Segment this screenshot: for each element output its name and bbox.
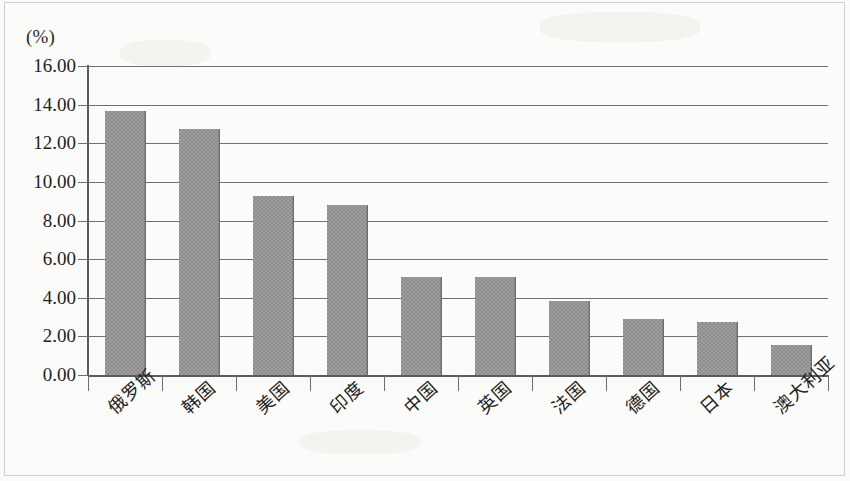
y-axis-tick-label: 6.00 — [4, 248, 76, 270]
y-axis-tick-label: 10.00 — [4, 171, 76, 193]
y-axis-tick-mark — [78, 336, 88, 337]
x-axis-category-label: 美国 — [249, 374, 294, 418]
x-axis-category-label: 日本 — [693, 374, 738, 418]
y-axis-tick-mark — [78, 105, 88, 106]
y-axis-tick-mark — [78, 221, 88, 222]
x-axis-category-label: 法国 — [545, 374, 590, 418]
bar — [623, 319, 664, 375]
x-axis-tick-mark — [236, 375, 237, 391]
y-axis-tick-label: 4.00 — [4, 287, 76, 309]
y-axis-tick-label: 8.00 — [4, 210, 76, 232]
bar — [253, 196, 294, 375]
x-axis-tick-mark — [384, 375, 385, 391]
bar-series — [88, 66, 828, 375]
x-axis-tick-mark — [458, 375, 459, 391]
x-axis-tick-mark — [532, 375, 533, 391]
y-axis-tick-label: 0.00 — [4, 364, 76, 386]
x-axis-category-label: 中国 — [397, 374, 442, 418]
bar — [327, 205, 368, 375]
paper-blotch — [300, 430, 420, 454]
paper-blotch — [540, 12, 700, 42]
bar — [401, 277, 442, 375]
bar — [179, 129, 220, 375]
y-axis-tick-mark — [78, 143, 88, 144]
y-axis-tick-mark — [78, 298, 88, 299]
x-axis-category-label: 英国 — [471, 374, 516, 418]
y-axis-tick-label: 14.00 — [4, 94, 76, 116]
x-axis-category-label: 德国 — [619, 374, 664, 418]
x-axis-tick-mark — [162, 375, 163, 391]
x-axis-tick-mark — [310, 375, 311, 391]
x-axis-tick-mark — [680, 375, 681, 391]
bar — [475, 277, 516, 375]
y-axis-tick-mark — [78, 182, 88, 183]
x-axis-category-label: 韩国 — [175, 374, 220, 418]
y-axis-tick-label: 16.00 — [4, 55, 76, 77]
y-axis-tick-mark — [78, 66, 88, 67]
x-axis-tick-mark — [606, 375, 607, 391]
y-axis-tick-mark — [78, 259, 88, 260]
x-axis-tick-mark — [754, 375, 755, 391]
y-axis-unit-label: (%) — [26, 26, 55, 48]
bar — [549, 301, 590, 375]
paper-blotch — [120, 40, 210, 66]
x-axis-category-label: 印度 — [323, 374, 368, 418]
chart-page: (%) 16.0014.0012.0010.008.006.004.002.00… — [0, 0, 850, 481]
bar — [105, 111, 146, 375]
y-axis-tick-label: 2.00 — [4, 325, 76, 347]
y-axis-tick-mark — [78, 375, 88, 376]
x-axis-tick-mark — [88, 375, 89, 391]
y-axis-tick-label: 12.00 — [4, 132, 76, 154]
bar — [697, 322, 738, 375]
